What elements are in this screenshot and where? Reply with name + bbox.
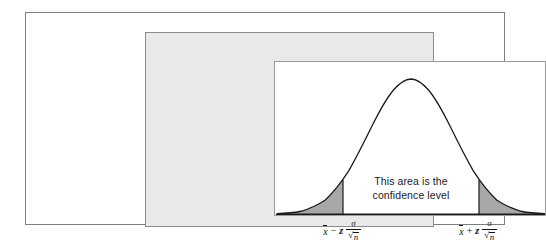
plot-area: This area is the confidence level <box>274 61 546 216</box>
upper-bound-formula-label: x + z σ √n <box>430 219 526 240</box>
upper-radicand-symbol: n <box>489 232 495 240</box>
upper-standard-error-fraction: σ √n <box>482 219 496 240</box>
lower-bound-formula-label: x − z σ √n <box>294 219 390 240</box>
upper-mean-symbol: x <box>459 224 463 237</box>
figure-root: This area is the confidence level x − z … <box>0 0 530 237</box>
normal-distribution-curve <box>277 79 545 214</box>
lower-operator-symbol: − <box>330 225 338 236</box>
lower-radicand-symbol: n <box>353 232 359 240</box>
figure-gray-panel: This area is the confidence level x − z … <box>145 32 434 227</box>
lower-standard-error-fraction: σ √n <box>346 219 360 240</box>
upper-tail-shaded-region <box>479 180 545 214</box>
upper-denominator: √n <box>482 230 496 240</box>
upper-operator-symbol: + <box>466 225 474 236</box>
figure-outer-frame: This area is the confidence level x − z … <box>25 12 505 225</box>
lower-z-symbol: z <box>339 225 343 236</box>
lower-sigma-symbol: σ <box>349 219 357 229</box>
lower-tail-shaded-region <box>277 180 343 214</box>
lower-mean-symbol: x <box>323 224 327 237</box>
upper-z-symbol: z <box>475 225 479 236</box>
normal-curve-graphic <box>275 62 546 216</box>
upper-sigma-symbol: σ <box>485 219 493 229</box>
lower-denominator: √n <box>346 230 360 240</box>
